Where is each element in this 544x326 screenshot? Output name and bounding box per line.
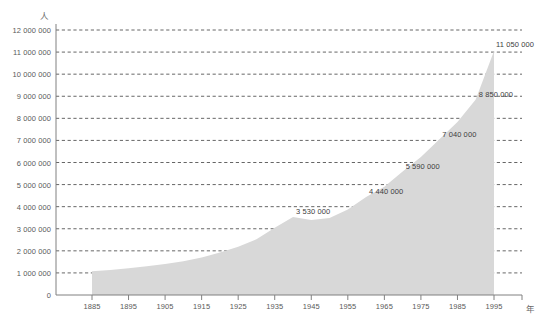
y-axis-tick-label: 5 000 000 <box>0 180 56 189</box>
x-axis-tick-label: 1925 <box>230 302 247 311</box>
x-axis-unit-label: 年 <box>526 302 535 314</box>
data-point-label: 8 850 000 <box>479 90 513 99</box>
y-axis-tick-label: 6 000 000 <box>0 158 56 167</box>
y-axis-tick-label: 11 000 000 <box>0 48 56 57</box>
chart-canvas <box>0 0 544 326</box>
x-axis-tick-label: 1985 <box>449 302 466 311</box>
x-axis-tick-label: 1945 <box>303 302 320 311</box>
y-axis-tick-label: 3 000 000 <box>0 224 56 233</box>
data-point-label: 3 530 000 <box>296 207 330 216</box>
area-series-group <box>92 51 494 295</box>
x-axis-tick-label: 1885 <box>83 302 100 311</box>
x-axis-tick-label: 1975 <box>412 302 429 311</box>
y-axis-tick-label: 7 000 000 <box>0 136 56 145</box>
population-area-chart: 12 000 00011 000 00010 000 0009 000 0008… <box>0 0 544 326</box>
y-axis-tick-label: 9 000 000 <box>0 92 56 101</box>
x-axis-tick-label: 1905 <box>157 302 174 311</box>
y-axis-tick-label: 1 000 000 <box>0 268 56 277</box>
x-axis-tick-label: 1895 <box>120 302 137 311</box>
y-axis-tick-label: 4 000 000 <box>0 202 56 211</box>
x-axis-tick-label: 1965 <box>376 302 393 311</box>
x-axis-tick-label: 1935 <box>266 302 283 311</box>
y-axis-tick-label: 10 000 000 <box>0 70 56 79</box>
x-axis-tick-label: 1915 <box>193 302 210 311</box>
y-axis-tick-label: 8 000 000 <box>0 114 56 123</box>
x-axis-tick-label: 1995 <box>485 302 502 311</box>
population-area <box>92 51 494 295</box>
data-point-label: 11 050 000 <box>496 40 534 49</box>
x-axis-tick-label: 1955 <box>339 302 356 311</box>
data-point-label: 4 440 000 <box>369 187 403 196</box>
y-axis-tick-labels: 12 000 00011 000 00010 000 0009 000 0008… <box>0 0 56 326</box>
data-point-label: 7 040 000 <box>442 130 476 139</box>
y-axis-tick-label: 2 000 000 <box>0 246 56 255</box>
data-point-label: 5 590 000 <box>406 162 440 171</box>
y-axis-unit-label: 人 <box>40 9 49 21</box>
y-axis-tick-label: 12 000 000 <box>0 26 56 35</box>
y-axis-tick-label: 0 <box>0 291 56 300</box>
